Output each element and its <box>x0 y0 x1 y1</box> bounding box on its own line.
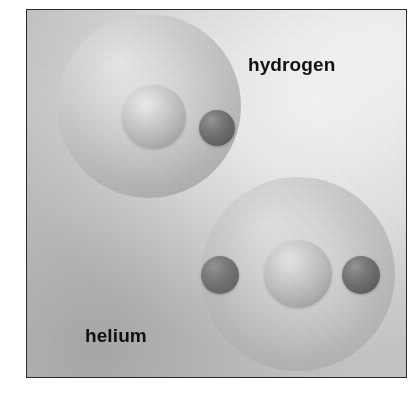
helium-nucleus <box>264 240 332 308</box>
label-hydrogen: hydrogen <box>248 54 335 76</box>
hydrogen-electron-1 <box>199 110 235 146</box>
label-helium: helium <box>85 325 147 347</box>
illustration-panel: hydrogen helium <box>26 9 407 378</box>
helium-electron-1 <box>201 256 239 294</box>
hydrogen-nucleus <box>122 85 186 149</box>
figure-container: hydrogen helium <box>0 0 419 396</box>
helium-electron-2 <box>342 256 380 294</box>
